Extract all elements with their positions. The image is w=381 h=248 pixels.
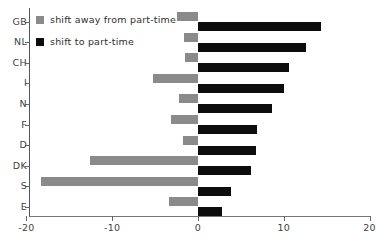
- legend-swatch-to-icon: [36, 38, 44, 46]
- bar-e-to: [198, 207, 222, 216]
- legend-item-to: shift to part-time: [36, 34, 176, 49]
- legend-swatch-away-icon: [36, 16, 44, 24]
- bar-n-away: [179, 94, 198, 103]
- y-tick-label: S: [0, 180, 27, 191]
- bar-nl-to: [198, 43, 306, 52]
- y-tick-label-text: I: [1, 77, 27, 88]
- y-tick-label: F: [0, 119, 27, 130]
- bar-dk-to: [198, 166, 251, 175]
- bar-d-away: [183, 136, 198, 145]
- bar-e-away: [169, 197, 198, 206]
- chart-legend: shift away from part-time shift to part-…: [36, 12, 176, 56]
- bar-f-to: [198, 125, 257, 134]
- y-tick-label-text: GB: [1, 16, 27, 27]
- y-tick-label-text: F: [1, 119, 27, 130]
- x-tick: [284, 216, 285, 221]
- x-tick-label: 0: [178, 222, 218, 233]
- x-tick: [198, 216, 199, 221]
- bar-gb-to: [198, 22, 321, 31]
- x-tick-label: -10: [92, 222, 132, 233]
- y-tick-label-text: E: [1, 201, 27, 212]
- x-tick: [112, 216, 113, 221]
- y-tick-label: GB: [0, 16, 27, 27]
- legend-label-away: shift away from part-time: [50, 14, 176, 25]
- y-tick-label: N: [0, 98, 27, 109]
- y-tick-label-text: DK: [1, 160, 27, 171]
- bar-s-away: [41, 177, 198, 186]
- y-tick-label: D: [0, 139, 27, 150]
- bar-ch-away: [185, 53, 198, 62]
- legend-label-to: shift to part-time: [50, 36, 134, 47]
- bar-d-to: [198, 146, 256, 155]
- bar-gb-away: [177, 12, 198, 21]
- bar-i-away: [153, 74, 198, 83]
- x-tick-label: 10: [264, 222, 304, 233]
- bar-i-to: [198, 84, 284, 93]
- bar-f-away: [171, 115, 198, 124]
- x-tick: [26, 216, 27, 221]
- y-axis-line: [29, 8, 30, 216]
- x-tick-label: -20: [6, 222, 46, 233]
- legend-item-away: shift away from part-time: [36, 12, 176, 27]
- x-tick: [370, 216, 371, 221]
- y-tick-label: I: [0, 77, 27, 88]
- y-tick-label-text: NL: [1, 36, 27, 47]
- y-tick-label-text: N: [1, 98, 27, 109]
- y-tick-label-text: D: [1, 139, 27, 150]
- bar-ch-to: [198, 63, 289, 72]
- bar-nl-away: [184, 33, 198, 42]
- y-tick-label: DK: [0, 160, 27, 171]
- bar-dk-away: [90, 156, 198, 165]
- bar-chart: GBNLCHINFDDKSE -20-1001020 shift away fr…: [0, 0, 381, 248]
- bar-s-to: [198, 187, 231, 196]
- y-tick-label-text: S: [1, 180, 27, 191]
- y-tick-label: E: [0, 201, 27, 212]
- y-tick-label-text: CH: [1, 57, 27, 68]
- y-tick-label: CH: [0, 57, 27, 68]
- bar-n-to: [198, 104, 272, 113]
- y-tick-label: NL: [0, 36, 27, 47]
- x-tick-label: 20: [350, 222, 381, 233]
